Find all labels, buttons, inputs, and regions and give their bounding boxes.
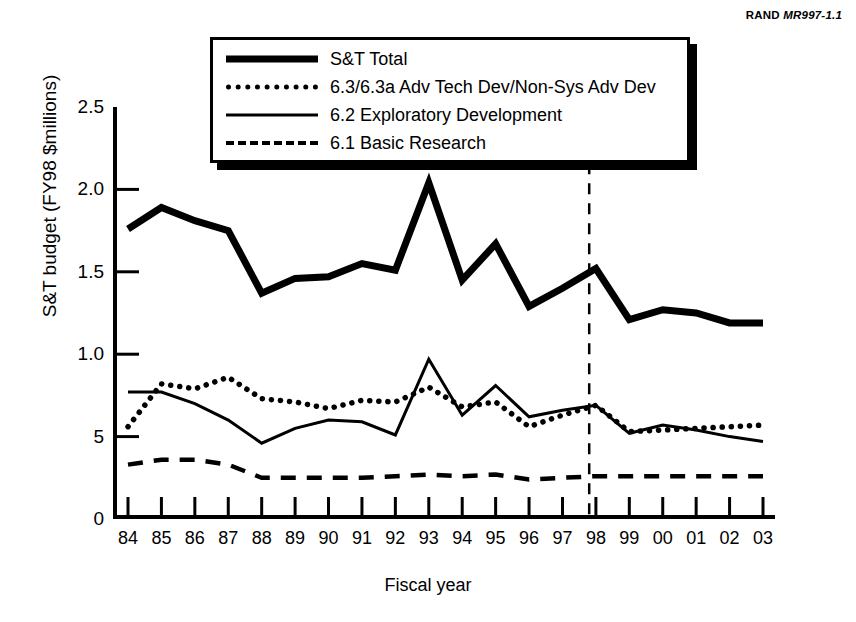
x-axis-title: Fiscal year	[0, 575, 856, 596]
x-tick-label: 95	[486, 528, 506, 549]
source-doc-id: MR997-1.1	[783, 9, 842, 21]
x-tick-label: 97	[552, 528, 572, 549]
legend-item-label: S&T Total	[330, 49, 407, 70]
y-tick-label: 5	[93, 426, 104, 448]
legend-item: 6.3/6.3a Adv Tech Dev/Non-Sys Adv Dev	[213, 73, 687, 101]
x-axis-tick-labels: 8485868788899091929394959697989900010203	[113, 528, 775, 556]
y-tick-label: 2.5	[78, 96, 104, 118]
legend-swatch-icon	[226, 80, 318, 94]
y-tick-label: 0	[93, 508, 104, 530]
source-org: RAND	[746, 9, 780, 21]
chart-legend: S&T Total6.3/6.3a Adv Tech Dev/Non-Sys A…	[210, 37, 690, 163]
chart-figure: RAND MR997-1.1 S&T budget (FY98 $million…	[0, 0, 856, 622]
x-tick-label: 96	[519, 528, 539, 549]
x-tick-label: 98	[586, 528, 606, 549]
y-tick-label: 1.5	[78, 261, 104, 283]
source-credit: RAND MR997-1.1	[746, 9, 842, 21]
legend-swatch-icon	[226, 108, 318, 122]
x-tick-label: 84	[118, 528, 138, 549]
x-tick-label: 88	[252, 528, 272, 549]
x-tick-label: 93	[419, 528, 439, 549]
series-line	[128, 183, 763, 323]
x-tick-label: 01	[686, 528, 706, 549]
y-axis-tick-labels: 051.01.52.02.5	[52, 107, 104, 519]
x-tick-label: 94	[452, 528, 472, 549]
x-tick-label: 99	[619, 528, 639, 549]
legend-item: 6.1 Basic Research	[213, 129, 687, 157]
legend-item-label: 6.1 Basic Research	[330, 133, 486, 154]
x-tick-label: 89	[285, 528, 305, 549]
legend-item-label: 6.2 Exploratory Development	[330, 105, 562, 126]
legend-item: 6.2 Exploratory Development	[213, 101, 687, 129]
x-tick-label: 90	[319, 528, 339, 549]
x-tick-label: 87	[218, 528, 238, 549]
y-tick-label: 2.0	[78, 178, 104, 200]
legend-item: S&T Total	[213, 45, 687, 73]
legend-swatch-icon	[226, 52, 318, 66]
series-line	[128, 460, 763, 480]
x-tick-label: 92	[385, 528, 405, 549]
x-tick-label: 02	[720, 528, 740, 549]
x-tick-label: 03	[753, 528, 773, 549]
x-tick-label: 86	[185, 528, 205, 549]
legend-swatch-icon	[226, 136, 318, 150]
x-tick-label: 85	[151, 528, 171, 549]
legend-item-label: 6.3/6.3a Adv Tech Dev/Non-Sys Adv Dev	[330, 77, 656, 98]
x-tick-label: 91	[352, 528, 372, 549]
y-tick-label: 1.0	[78, 343, 104, 365]
x-tick-label: 00	[653, 528, 673, 549]
